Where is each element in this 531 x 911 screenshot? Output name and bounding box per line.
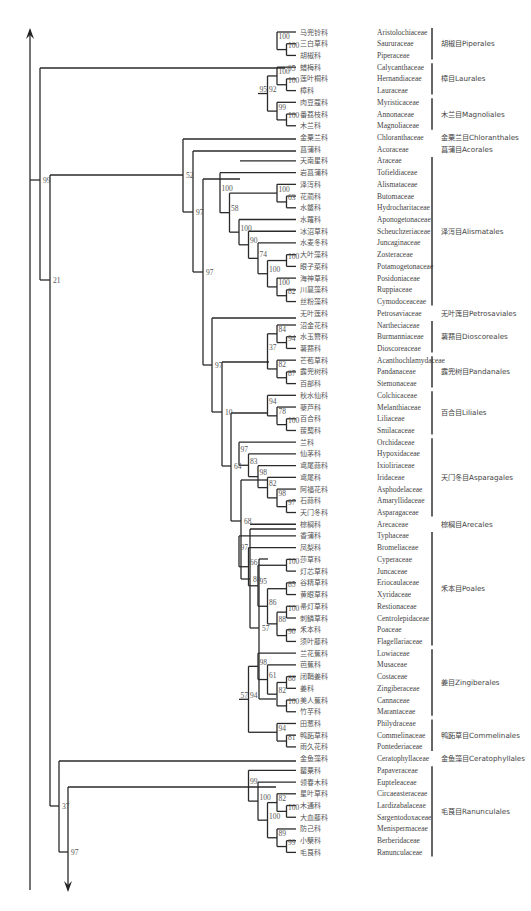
taxon-chinese-name: 大叶藻科 [300, 250, 328, 259]
taxon-chinese-name: 秋水仙科 [300, 391, 328, 400]
taxon-chinese-name: 鸢尾科 [300, 473, 321, 482]
taxon-chinese-name: 海神草科 [300, 274, 328, 283]
taxon-latin-name: Ruppiaceae [377, 285, 413, 294]
taxon-row: 胡椒科Piperaceae [300, 51, 410, 60]
taxon-row: 川蔓藻科Ruppiaceae [300, 285, 413, 294]
taxon-row: 雨久花科Pontederiaceae [300, 742, 423, 751]
taxon-chinese-name: 莲叶桐科 [300, 74, 328, 83]
taxon-latin-name: Dioscoreaceae [377, 344, 421, 353]
taxon-row: 水玉簪科Burmanniaceae [300, 332, 424, 341]
taxon-row: 马兜铃科Aristolochiaceae [300, 28, 428, 37]
order-label: 天门冬目Asparagales [441, 473, 513, 482]
taxon-chinese-name: 谷精草科 [300, 578, 328, 587]
support-value: 100 [288, 252, 300, 261]
taxon-chinese-name: 木兰科 [300, 121, 321, 130]
support-value: 100 [279, 185, 291, 194]
taxon-chinese-name: 美人蕉科 [300, 696, 328, 705]
taxon-chinese-name: 藜芦科 [300, 403, 321, 412]
taxon-row: 海神草科Posidoniaceae [300, 274, 421, 283]
taxa-labels: 马兜铃科Aristolochiaceae三白草科Saururaceae胡椒科Pi… [300, 28, 446, 857]
taxon-chinese-name: 兰科 [300, 438, 314, 447]
taxon-row: 薯蓣科Dioscoreaceae [300, 344, 421, 353]
taxon-latin-name: Scheuchzeriaceae [377, 227, 431, 236]
taxon-row: 冰沼草科Scheuchzeriaceae [300, 227, 431, 236]
taxon-chinese-name: 石蒜科 [300, 496, 321, 505]
taxon-row: 肉豆蔻科Myristicaceae [300, 98, 420, 107]
support-value: 90 [288, 627, 296, 636]
support-value: 82 [279, 360, 287, 369]
support-value: 52 [186, 171, 194, 180]
order-label: 菖蒲目Acorales [441, 145, 493, 154]
taxon-latin-name: Marantaceae [377, 707, 416, 716]
taxon-latin-name: Stemonaceae [377, 379, 417, 388]
taxon-row: 罂粟科Papaveraceae [300, 766, 418, 775]
taxon-latin-name: Hernandiaceae [377, 74, 422, 83]
taxon-row: 菝葜科Smilacaceae [300, 426, 415, 435]
taxon-latin-name: Juncaceae [377, 567, 408, 576]
taxon-latin-name: Orchidaceae [377, 438, 415, 447]
order-label: 无叶莲目Petrosaviales [441, 309, 517, 318]
taxon-chinese-name: 金粟兰科 [300, 133, 328, 142]
taxon-chinese-name: 领春木科 [300, 778, 328, 787]
support-value: 94 [269, 397, 277, 406]
taxon-latin-name: Burmanniaceae [377, 332, 424, 341]
taxon-row: 水麦冬科Juncaginaceae [300, 238, 421, 247]
support-value: 100 [288, 557, 300, 566]
support-value: 74 [260, 250, 268, 259]
taxon-latin-name: Acoraceae [377, 145, 409, 154]
taxon-latin-name: Berberidaceae [377, 836, 421, 845]
taxon-row: 大叶藻科Zosteraceae [300, 250, 413, 259]
support-value: 78 [279, 407, 287, 416]
taxon-chinese-name: 帚灯草科 [300, 602, 328, 611]
support-value: 100 [269, 812, 281, 821]
support-value: 82 [279, 794, 287, 803]
taxon-chinese-name: 芒苞草科 [300, 356, 328, 365]
taxon-row: 帚灯草科Restionaceae [300, 602, 417, 611]
support-value: 100 [269, 265, 281, 274]
taxon-chinese-name: 须叶藤科 [300, 637, 328, 646]
taxon-chinese-name: 雨久花科 [300, 742, 328, 751]
support-value: 95 [260, 85, 268, 94]
taxon-latin-name: Colchicaceae [377, 391, 418, 400]
taxon-latin-name: Butomaceae [377, 192, 415, 201]
taxon-row: 仙茅科Hypoxidaceae [300, 449, 421, 458]
taxon-chinese-name: 小檗科 [300, 836, 321, 845]
taxon-latin-name: Nartheciaceae [377, 321, 420, 330]
taxon-latin-name: Smilacaceae [377, 426, 415, 435]
support-value: 100 [279, 278, 291, 287]
support-value: 57 [262, 624, 270, 633]
taxon-latin-name: Pandanaceae [377, 367, 416, 376]
taxon-row: 天南星科Araceae [300, 156, 402, 165]
taxon-chinese-name: 菖蒲科 [300, 145, 321, 154]
order-label: 毛茛目Ranunculales [441, 807, 510, 816]
taxon-row: 秋水仙科Colchicaceae [300, 391, 418, 400]
taxon-chinese-name: 泽泻科 [300, 180, 321, 189]
support-value: 100 [222, 184, 234, 193]
support-value: 64 [234, 462, 242, 471]
taxon-row: 天门冬科Asparagaceae [300, 508, 419, 517]
taxon-row: 藜芦科Melanthiaceae [300, 403, 421, 412]
support-value: 97 [241, 543, 249, 552]
taxon-row: 姜科Zingiberaceae [300, 684, 420, 693]
taxon-chinese-name: 水麦冬科 [300, 238, 328, 247]
taxon-chinese-name: 川蔓藻科 [300, 285, 328, 294]
taxon-row: 小檗科Berberidaceae [300, 836, 421, 845]
support-value: 99 [250, 777, 258, 786]
taxon-latin-name: Philydraceae [377, 719, 416, 728]
taxon-latin-name: Asphodelaceae [377, 485, 423, 494]
taxon-chinese-name: 棕榈科 [300, 520, 321, 529]
taxon-chinese-name: 凤梨科 [300, 543, 321, 552]
support-value: 88 [279, 615, 287, 624]
taxon-latin-name: Lowiaceae [377, 649, 410, 658]
taxon-latin-name: Hydrocharitaceae [377, 203, 431, 212]
taxon-row: 蜡梅科Calycanthaceae [300, 63, 425, 72]
taxon-row: 番荔枝科Annonaceae [300, 110, 415, 119]
taxon-chinese-name: 番荔枝科 [300, 110, 328, 119]
support-value: 100 [260, 793, 272, 802]
taxon-chinese-name: 水蕹科 [300, 215, 321, 224]
support-value: 83 [250, 457, 258, 466]
taxon-chinese-name: 三白草科 [300, 39, 328, 48]
order-label: 露兜树目Pandanales [441, 367, 510, 376]
taxon-row: 闭鞘姜科Costaceae [300, 672, 408, 681]
taxon-chinese-name: 天门冬科 [300, 508, 328, 517]
